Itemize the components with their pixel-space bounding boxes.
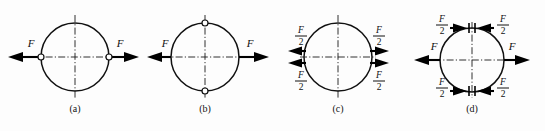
- svg-text:F: F: [438, 14, 445, 24]
- svg-text:F: F: [297, 70, 304, 80]
- svg-text:2: 2: [440, 89, 445, 99]
- svg-text:F: F: [438, 77, 445, 87]
- panel-a-right-force-label: F: [116, 37, 124, 49]
- panel-b-caption: (b): [199, 103, 211, 115]
- panel-d-left-force-arrow: [414, 55, 440, 65]
- panel-c-left-lower-half-force-label: F 2: [295, 70, 307, 92]
- panel-d-right-force-arrow: [504, 55, 530, 65]
- panel-b: F F (b): [147, 15, 269, 115]
- panel-c-left-upper-half-force-arrow: [288, 47, 306, 56]
- figure-container: F F (a) F F (b): [0, 0, 545, 131]
- panel-a-right-force-arrow: [109, 52, 139, 62]
- panel-c-right-lower-half-force-label: F 2: [373, 70, 385, 92]
- panel-b-bottom-pin-marker: [202, 88, 208, 94]
- svg-text:F: F: [499, 14, 506, 24]
- panel-d-top-right-half-force-label: F 2: [497, 14, 509, 36]
- panel-c-caption: (c): [332, 103, 343, 115]
- panel-b-top-pin-marker: [202, 20, 208, 26]
- panel-d-bottom-right-half-force-arrow: [477, 87, 494, 96]
- svg-text:2: 2: [501, 26, 506, 36]
- panel-d-right-force-label: F: [508, 40, 516, 52]
- panel-c-right-upper-half-force-arrow: [370, 47, 389, 56]
- panel-d-bottom-right-half-force-label: F 2: [497, 77, 509, 99]
- svg-text:2: 2: [440, 26, 445, 36]
- svg-text:F: F: [297, 25, 304, 35]
- panel-a-right-pin-marker: [106, 54, 112, 60]
- panel-b-right-force-arrow: [239, 52, 269, 62]
- panel-c-left-lower-half-force-arrow: [288, 59, 306, 68]
- panel-c: F 2 F 2 F 2 F 2 (c): [288, 15, 389, 115]
- panel-d: F F F 2 F 2: [414, 14, 530, 115]
- panel-d-top-left-half-force-label: F 2: [436, 14, 448, 36]
- panel-d-caption: (d): [466, 103, 478, 115]
- svg-text:F: F: [499, 77, 506, 87]
- panel-c-right-lower-half-force-arrow: [370, 59, 389, 68]
- panel-c-left-upper-half-force-label: F 2: [295, 25, 307, 47]
- panel-c-right-upper-half-force-label: F 2: [373, 25, 385, 47]
- panel-a-left-force-label: F: [27, 37, 35, 49]
- svg-text:2: 2: [501, 89, 506, 99]
- panel-a-left-force-arrow: [8, 52, 41, 62]
- panel-a: F F (a): [8, 15, 139, 115]
- svg-text:2: 2: [377, 82, 382, 92]
- svg-text:2: 2: [377, 37, 382, 47]
- panel-a-caption: (a): [69, 103, 80, 115]
- svg-text:2: 2: [299, 82, 304, 92]
- panel-b-left-force-arrow: [147, 52, 171, 62]
- panel-d-left-force-label: F: [430, 40, 438, 52]
- svg-text:2: 2: [299, 37, 304, 47]
- panel-b-left-force-label: F: [161, 37, 169, 49]
- panel-d-bottom-left-half-force-label: F 2: [436, 77, 448, 99]
- svg-text:F: F: [375, 70, 382, 80]
- panel-b-right-force-label: F: [246, 37, 254, 49]
- panel-d-bottom-left-half-force-arrow: [450, 87, 467, 96]
- svg-text:F: F: [375, 25, 382, 35]
- panel-a-left-pin-marker: [38, 54, 44, 60]
